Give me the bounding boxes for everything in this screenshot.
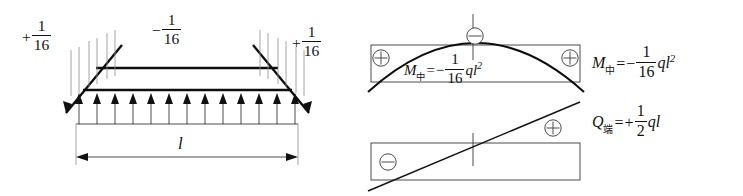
moment-equation-subscript: 中 (605, 65, 615, 76)
moment-inner-subscript: 中 (416, 71, 425, 82)
shear-equation: Q端=+12ql (592, 105, 660, 142)
beam-load-panel-graphics (63, 30, 312, 165)
shear-equation-sign: + (625, 115, 634, 131)
shear-baseline-box (371, 143, 580, 180)
shear-equation-equals: = (615, 115, 624, 131)
udl-arrowheads (75, 93, 299, 104)
right-reaction-label: +116 (292, 26, 322, 62)
moment-equation: M中=−116ql2 (592, 46, 675, 83)
shear-force-diagram-graphics (368, 102, 580, 191)
span-arrow-right (286, 153, 298, 161)
shear-equation-symbol: Q (592, 113, 604, 130)
span-arrow-left (76, 153, 88, 161)
diagram-vector-layer (0, 0, 743, 196)
moment-inner-exponent: 2 (477, 60, 482, 71)
left-reaction-numerator: 1 (32, 18, 52, 36)
left-reaction-fraction: 116 (32, 18, 52, 54)
shear-equation-denominator: 2 (635, 122, 647, 140)
moment-equation-sign: − (626, 56, 635, 72)
moment-equation-fraction: 116 (636, 44, 656, 81)
moment-inner-numerator: 1 (445, 52, 464, 70)
moment-inner-fraction: 116 (445, 52, 464, 87)
shear-equation-subscript: 端 (603, 124, 613, 135)
mid-moment-denominator: 16 (162, 30, 182, 47)
mid-moment-numerator: 1 (162, 12, 182, 30)
moment-inner-sign: − (436, 63, 444, 78)
right-reaction-sign: + (292, 35, 301, 51)
shear-equation-variable: l (656, 113, 660, 130)
moment-sign-left (373, 50, 389, 66)
right-reaction-fraction: 116 (302, 24, 322, 60)
moment-inner-equation: M中=−116ql2 (404, 54, 482, 89)
left-reaction-label: +116 (22, 20, 52, 56)
shear-line (368, 102, 580, 191)
shear-equation-factor: q (648, 113, 656, 130)
moment-sign-center (467, 28, 483, 44)
right-reaction-denominator: 16 (302, 42, 322, 59)
shear-equation-fraction: 12 (635, 103, 647, 140)
moment-equation-symbol: M (592, 54, 605, 71)
moment-sign-right (562, 50, 578, 66)
moment-equation-equals: = (616, 56, 625, 72)
moment-equation-denominator: 16 (636, 63, 656, 81)
span-length-label: l (178, 135, 183, 152)
mid-moment-sign: − (152, 23, 161, 39)
shear-sign-left (380, 154, 396, 170)
moment-inner-factor: q (465, 62, 473, 78)
moment-inner-denominator: 16 (445, 70, 464, 87)
moment-inner-symbol: M (404, 62, 417, 78)
mid-moment-fraction: 116 (162, 12, 182, 48)
mid-moment-label: −116 (152, 14, 182, 50)
moment-equation-exponent: 2 (670, 52, 675, 64)
moment-inner-equals: = (427, 63, 435, 78)
left-reaction-sign: + (22, 29, 31, 45)
shear-equation-numerator: 1 (635, 103, 647, 122)
figure-canvas: +116 −116 +116 l M中=−116ql2 M中=−116ql2 Q… (0, 0, 743, 196)
shear-sign-right (545, 120, 561, 136)
right-reaction-numerator: 1 (302, 24, 322, 42)
moment-equation-numerator: 1 (636, 44, 656, 63)
left-reaction-denominator: 16 (32, 36, 52, 53)
